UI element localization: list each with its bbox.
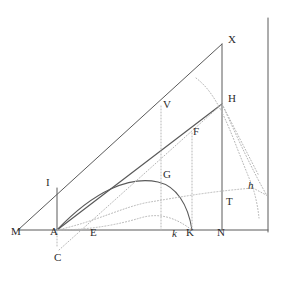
label-X: X (228, 34, 236, 45)
dotted-curve-below-h (253, 188, 259, 218)
dotted-arc-A-mid (57, 188, 253, 230)
dotted-line-H-lower-ray (222, 104, 259, 176)
label-G: G (163, 169, 171, 180)
hypotenuse-MX (18, 44, 222, 230)
label-I: I (46, 177, 50, 188)
dotted-curve-through-H (196, 78, 253, 188)
label-C: C (54, 252, 61, 263)
label-T: T (226, 196, 233, 207)
label-A: A (50, 226, 58, 237)
geometric-diagram: M A E C I G V F X H T N k K h (0, 0, 291, 286)
label-K: K (186, 227, 194, 238)
figure-canvas (0, 0, 291, 286)
label-E: E (90, 227, 97, 238)
chord-AH (57, 104, 222, 230)
label-N: N (217, 227, 225, 238)
label-H: H (228, 93, 236, 104)
label-V: V (163, 99, 171, 110)
label-M: M (11, 226, 21, 237)
label-F: F (193, 126, 199, 137)
curve-AGK (57, 181, 192, 230)
label-k: k (172, 228, 177, 239)
label-h: h (248, 180, 254, 191)
